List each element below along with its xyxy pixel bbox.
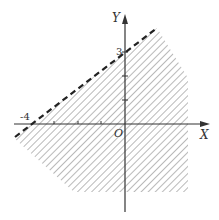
y-intercept-label: 3 xyxy=(116,46,122,57)
x-axis-label: X xyxy=(199,128,209,142)
shaded-region xyxy=(0,0,219,220)
x-intercept-label: -4 xyxy=(20,111,30,122)
origin-label: O xyxy=(114,127,123,140)
y-axis-arrow-icon xyxy=(122,14,128,24)
coordinate-plane-diagram: Y X O 3 -4 xyxy=(0,0,219,220)
x-axis-arrow-icon xyxy=(200,121,210,127)
y-axis-label: Y xyxy=(112,11,121,25)
